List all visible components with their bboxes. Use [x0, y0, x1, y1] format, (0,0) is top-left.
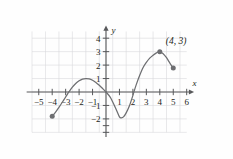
x-tick-label: −5 [34, 97, 44, 107]
y-axis-arrowhead [103, 25, 108, 30]
x-tick-label: 1 [117, 97, 122, 107]
y-axis-name-label: y [111, 25, 116, 35]
x-tick-label: 3 [144, 97, 149, 107]
point-annotations: (4, 3) [166, 36, 187, 47]
y-tick-label: 4 [96, 34, 101, 44]
x-tick-label: 4 [158, 97, 163, 107]
peak-coordinate-label: (4, 3) [166, 36, 187, 47]
graph-figure: −5−4−3−2−1123456−2−11234 (4, 3) xy [0, 0, 233, 159]
x-tick-label: −4 [47, 97, 57, 107]
coordinate-plane: −5−4−3−2−1123456−2−11234 (4, 3) xy [0, 0, 233, 159]
x-tick-label: 6 [184, 97, 189, 107]
x-tick-label: 5 [171, 97, 176, 107]
x-axis-arrowhead [189, 89, 194, 94]
y-tick-label: −2 [91, 114, 101, 124]
x-axis-name-label: x [192, 78, 197, 88]
y-tick-label: 2 [96, 61, 101, 71]
data-point-left-endpoint [50, 114, 55, 119]
x-tick-label: −2 [74, 97, 84, 107]
grid-lines [32, 31, 187, 132]
data-point-peak-point [157, 49, 162, 54]
y-tick-label: 3 [96, 47, 101, 57]
y-tick-label: −1 [91, 101, 101, 111]
data-point-right-endpoint [171, 66, 176, 71]
